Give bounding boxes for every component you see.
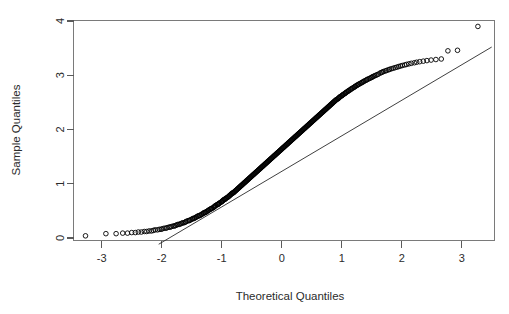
- x-tick-label: 3: [459, 252, 465, 264]
- qq-plot-canvas: -3-2-10123 01234 Theoretical Quantiles S…: [0, 0, 509, 314]
- y-tick-label: 0: [54, 235, 66, 241]
- x-tick-label: -3: [97, 252, 107, 264]
- x-tick-label: 0: [279, 252, 285, 264]
- x-axis-title: Theoretical Quantiles: [236, 290, 345, 302]
- figure-background: [0, 0, 509, 314]
- y-tick-label: 3: [54, 72, 66, 78]
- y-tick-label: 1: [54, 181, 66, 187]
- x-tick-label: 1: [339, 252, 345, 264]
- y-tick-label: 2: [54, 126, 66, 132]
- qq-plot-figure: -3-2-10123 01234 Theoretical Quantiles S…: [0, 0, 509, 314]
- y-tick-label: 4: [54, 18, 66, 24]
- x-tick-label: -1: [217, 252, 227, 264]
- x-tick-label: 2: [399, 252, 405, 264]
- x-tick-label: -2: [157, 252, 167, 264]
- y-axis-title: Sample Quantiles: [10, 84, 22, 175]
